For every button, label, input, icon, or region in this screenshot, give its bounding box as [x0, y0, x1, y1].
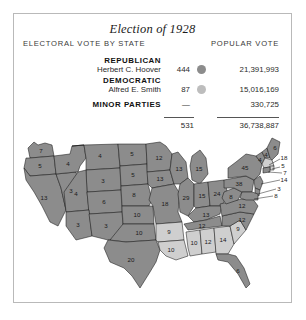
election-results-card: Election of 1928 ELECTORAL VOTE BY STATE… — [13, 13, 292, 303]
state-label-CO: 6 — [102, 198, 106, 205]
total-electoral-votes: 531 — [164, 121, 194, 130]
state-label-MI: 15 — [196, 165, 203, 172]
party-name: MINOR PARTIES — [92, 100, 161, 109]
state-label-TN: 12 — [199, 222, 206, 229]
state-label-NC: 12 — [239, 216, 246, 223]
state-label-IN: 15 — [199, 192, 206, 199]
state-label-CA: 13 — [41, 194, 48, 201]
state-label-FL: 6 — [236, 267, 240, 274]
party-name: DEMOCRATIC — [103, 76, 161, 85]
state-label-MO: 18 — [162, 200, 169, 207]
state-label-WI: 13 — [176, 165, 183, 172]
totals-rule-popular — [217, 117, 279, 118]
state-FL — [216, 254, 250, 288]
party-row-republican: REPUBLICAN Herbert C. Hoover 444 21,391,… — [14, 56, 291, 76]
state-label-WV: 8 — [229, 193, 233, 200]
popular-vote-value: 21,391,993 — [217, 65, 279, 74]
leader-line-CT — [268, 172, 282, 173]
us-electoral-map-svg: 7 5 13 3 4 4 3 4 6 3 3 5 5 8 10 10 20 12… — [14, 136, 291, 302]
leader-label-CT: 7 — [283, 169, 287, 176]
electoral-vote-value: 87 — [170, 85, 190, 94]
state-label-OH: 24 — [214, 190, 221, 197]
leader-label-RI: 5 — [281, 162, 285, 169]
candidate-name: Herbert C. Hoover — [97, 65, 161, 74]
state-label-VA: 12 — [239, 202, 246, 209]
state-label-NY: 45 — [242, 164, 249, 171]
state-label-AL: 12 — [205, 238, 212, 245]
electoral-map: 7 5 13 3 4 4 3 4 6 3 3 5 5 8 10 10 20 12… — [14, 136, 291, 302]
state-label-LA: 10 — [168, 246, 175, 253]
party-results-list: REPUBLICAN Herbert C. Hoover 444 21,391,… — [14, 56, 291, 116]
column-header-electoral: ELECTORAL VOTE BY STATE — [23, 39, 145, 48]
state-label-SD: 5 — [131, 171, 135, 178]
leader-label-DE: 3 — [277, 185, 281, 192]
state-NE — [121, 184, 152, 206]
state-label-WY: 3 — [101, 177, 105, 184]
leader-label-MD: 8 — [274, 192, 278, 199]
state-label-IA: 13 — [157, 175, 164, 182]
total-popular-votes: 36,738,887 — [217, 121, 279, 130]
republican-color-swatch-icon — [197, 65, 206, 74]
democratic-color-swatch-icon — [197, 85, 206, 94]
column-header-popular: POPULAR VOTE — [211, 39, 279, 48]
state-TX — [104, 240, 160, 288]
leader-label-NJ: 14 — [281, 176, 288, 183]
state-label-PA: 38 — [236, 180, 243, 187]
electoral-vote-value: 444 — [170, 65, 190, 74]
state-label-ID: 4 — [66, 160, 70, 167]
state-label-UT: 4 — [74, 190, 78, 197]
popular-vote-value: 15,016,169 — [217, 85, 279, 94]
state-RI — [270, 166, 274, 170]
popular-vote-value: 330,725 — [217, 100, 279, 109]
electoral-vote-value: — — [170, 100, 190, 109]
state-label-OR: 5 — [38, 162, 42, 169]
state-label-MS: 10 — [191, 239, 198, 246]
state-label-GA: 14 — [220, 236, 227, 243]
candidate-name: Alfred E. Smith — [108, 85, 161, 94]
state-label-KS: 10 — [134, 211, 141, 218]
state-ID — [54, 145, 86, 174]
state-label-OK: 10 — [136, 229, 143, 236]
state-label-IL: 29 — [183, 194, 190, 201]
party-row-minor: MINOR PARTIES — 330,725 — [14, 96, 291, 116]
state-label-MN: 12 — [156, 154, 163, 161]
leader-label-MA: 18 — [281, 154, 288, 161]
state-label-NH: 4 — [264, 151, 268, 158]
state-label-ND: 5 — [130, 150, 134, 157]
state-label-VT: 4 — [258, 156, 262, 163]
state-label-NM: 3 — [104, 222, 108, 229]
party-row-democratic: DEMOCRATIC Alfred E. Smith 87 15,016,169 — [14, 76, 291, 96]
party-name: REPUBLICAN — [104, 56, 161, 65]
state-label-SC: 9 — [236, 225, 240, 232]
state-label-ME: 6 — [273, 144, 277, 151]
state-label-WA: 7 — [39, 147, 43, 154]
totals-rule-electoral — [164, 117, 194, 118]
state-label-AZ: 3 — [76, 221, 80, 228]
page-title: Election of 1928 — [14, 22, 291, 37]
leader-line-NJ — [261, 180, 280, 184]
state-label-MT: 4 — [98, 152, 102, 159]
state-label-NE: 8 — [132, 191, 136, 198]
column-headers: ELECTORAL VOTE BY STATE POPULAR VOTE — [14, 39, 291, 51]
state-label-KY: 13 — [203, 211, 210, 218]
state-label-AR: 9 — [167, 228, 171, 235]
state-label-TX: 20 — [128, 256, 135, 263]
state-label-NV: 3 — [69, 187, 73, 194]
